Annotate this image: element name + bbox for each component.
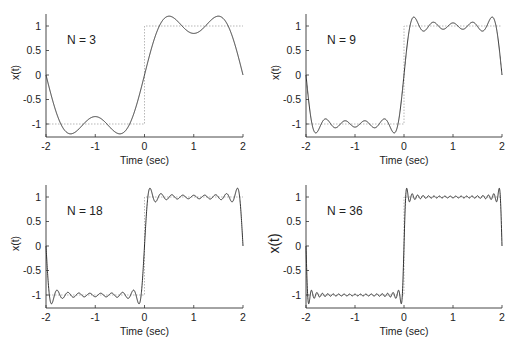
x-tick-label: 2 [499,311,505,323]
y-tick-label: 0 [295,240,301,252]
x-tick-label: -2 [301,311,310,323]
x-axis-title: Time (sec) [379,325,428,337]
x-tick-label: 0 [401,311,407,323]
plot-n36: -2-101210.50-0.5-1Time (sec)x(t)N = 36 [0,0,516,346]
y-tick-label: 0.5 [286,215,301,227]
y-tick-label: -1 [292,289,301,301]
y-tick-label: 1 [295,191,301,203]
x-tick-label: -1 [350,311,359,323]
y-axis-title: x(t) [266,233,282,253]
n-label: N = 36 [327,204,363,218]
x-tick-label: 1 [450,311,456,323]
y-tick-label: -0.5 [283,264,301,276]
